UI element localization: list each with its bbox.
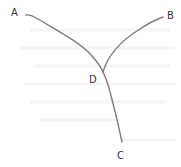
- edge-b-d: [103, 17, 163, 72]
- faint-background-text: [20, 30, 175, 140]
- node-label-c: C: [117, 150, 124, 161]
- node-label-b: B: [167, 10, 174, 21]
- node-label-a: A: [11, 7, 18, 18]
- node-label-d: D: [89, 74, 97, 85]
- edge-a-d: [26, 15, 103, 72]
- tree-diagram: A B D C: [0, 0, 181, 167]
